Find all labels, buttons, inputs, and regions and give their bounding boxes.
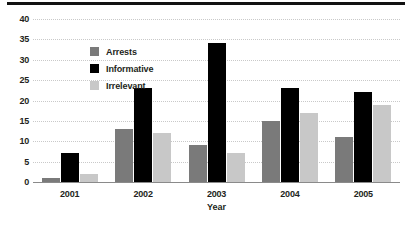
legend-label: Irrelevant — [106, 81, 146, 91]
y-axis-tick-label: 20 — [5, 96, 29, 106]
y-axis-tick-label: 0 — [5, 177, 29, 187]
y-axis-tick-label: 15 — [5, 116, 29, 126]
legend-item-arrests[interactable]: Arrests — [90, 43, 200, 60]
bar-irrelevant-2002[interactable] — [153, 133, 171, 182]
bar-arrests-2003[interactable] — [189, 145, 207, 182]
bar-arrests-2002[interactable] — [115, 129, 133, 182]
y-axis-tick-label: 30 — [5, 55, 29, 65]
y-axis-tick-label: 25 — [5, 75, 29, 85]
bar-informative-2001[interactable] — [61, 153, 79, 182]
legend-label: Informative — [106, 64, 153, 74]
x-axis-tick-label-2002: 2002 — [113, 189, 173, 199]
legend-label: Arrests — [106, 47, 137, 57]
x-axis-tick-labels: 20012002200320042005 — [33, 187, 400, 203]
x-axis-title: Year — [33, 202, 400, 212]
bar-irrelevant-2004[interactable] — [300, 113, 318, 182]
y-axis-tick-labels: 4035302520151050 — [0, 19, 29, 182]
chart-legend: ArrestsInformativeIrrelevant — [90, 43, 200, 94]
bar-arrests-2005[interactable] — [335, 137, 353, 182]
legend-item-irrelevant[interactable]: Irrelevant — [90, 77, 200, 94]
y-axis-tick-label: 35 — [5, 34, 29, 44]
bar-series-container — [33, 19, 400, 182]
bar-informative-2003[interactable] — [208, 43, 226, 182]
y-axis-tick-label: 40 — [5, 14, 29, 24]
legend-swatch-icon — [90, 81, 99, 90]
y-axis-tick-label: 10 — [5, 136, 29, 146]
x-axis-tick-label-2001: 2001 — [40, 189, 100, 199]
plot-area: ArrestsInformativeIrrelevant — [33, 19, 400, 182]
bar-informative-2005[interactable] — [354, 92, 372, 182]
bar-group — [335, 19, 391, 182]
bar-arrests-2004[interactable] — [262, 121, 280, 182]
x-axis-tick-label-2005: 2005 — [333, 189, 393, 199]
bar-informative-2002[interactable] — [134, 88, 152, 182]
bar-group — [262, 19, 318, 182]
bar-informative-2004[interactable] — [281, 88, 299, 182]
y-axis-tick-label: 5 — [5, 157, 29, 167]
bar-irrelevant-2003[interactable] — [227, 153, 245, 182]
bar-irrelevant-2001[interactable] — [80, 174, 98, 182]
legend-swatch-icon — [90, 64, 99, 73]
x-axis-tick-label-2004: 2004 — [260, 189, 320, 199]
x-axis-tick-label-2003: 2003 — [187, 189, 247, 199]
bar-irrelevant-2005[interactable] — [373, 105, 391, 182]
legend-item-informative[interactable]: Informative — [90, 60, 200, 77]
legend-swatch-icon — [90, 47, 99, 56]
x-axis-line — [33, 182, 400, 183]
bar-chart-figure: 4035302520151050 ArrestsInformativeIrrel… — [0, 5, 410, 229]
